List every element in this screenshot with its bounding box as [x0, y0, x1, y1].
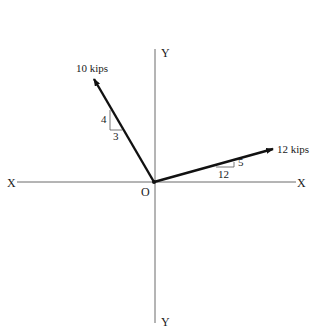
y-axis-top-label: Y	[161, 46, 170, 60]
origin-label: O	[141, 185, 150, 199]
slope-run-label-12: 12	[218, 168, 229, 180]
slope-run-label-3: 3	[113, 130, 119, 142]
y-axis-bottom-label: Y	[161, 315, 170, 329]
force-diagram: X X Y Y O 10 kips 4 3 12 kips 12 5	[0, 0, 316, 336]
slope-triangle-4-3	[110, 110, 122, 130]
force-vector-12-kips	[154, 149, 273, 182]
force-label-12-kips: 12 kips	[277, 143, 309, 155]
x-axis-left-label: X	[7, 176, 16, 190]
origin-point	[152, 180, 156, 184]
x-axis-right-label: X	[297, 176, 306, 190]
slope-rise-label-5: 5	[238, 156, 244, 168]
slope-rise-label-4: 4	[101, 113, 107, 125]
force-vector-10-kips	[94, 79, 154, 182]
force-label-10-kips: 10 kips	[76, 62, 108, 74]
